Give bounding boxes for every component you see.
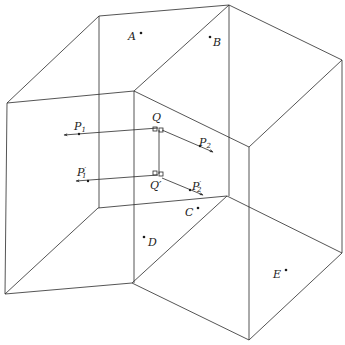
point-c-dot — [197, 207, 200, 210]
point-a-dot — [140, 32, 143, 35]
edge — [249, 253, 342, 340]
vector-point-dot — [78, 133, 80, 135]
edge — [98, 196, 227, 208]
label-b: B — [212, 36, 221, 49]
label-q: Q — [152, 111, 161, 124]
edge — [132, 283, 249, 340]
label-p1: P1 — [73, 120, 86, 134]
label-q-prime: Q′ — [150, 179, 162, 192]
face-points — [140, 32, 288, 272]
edge — [227, 196, 342, 253]
edge — [132, 196, 227, 283]
label-p2-prime: P′2 — [191, 180, 202, 194]
polyhedron-edges — [5, 5, 342, 340]
vector-point-dot — [87, 180, 89, 182]
edge — [5, 283, 132, 294]
point-b-dot — [209, 36, 212, 39]
vectors — [64, 128, 213, 195]
right-angle-marker-q — [153, 127, 163, 132]
label-e: E — [272, 268, 281, 281]
edge — [249, 60, 342, 147]
edge — [7, 91, 134, 103]
label-p1-prime: P′1 — [76, 166, 86, 180]
edge — [99, 5, 229, 16]
polyhedron-diagram: A B C D E Q Q′ P1 P2 P′1 P′2 — [0, 0, 345, 345]
label-d: D — [147, 236, 157, 249]
label-a: A — [127, 30, 136, 43]
edge — [7, 16, 99, 103]
label-c: C — [185, 206, 194, 219]
label-p2: P2 — [198, 136, 211, 150]
diagram-canvas: A B C D E Q Q′ P1 P2 P′1 P′2 — [0, 0, 345, 345]
edge — [229, 5, 342, 60]
edge — [5, 103, 7, 294]
edge — [5, 208, 98, 294]
point-e-dot — [285, 269, 288, 272]
vector-point-dot — [189, 189, 191, 191]
point-d-dot — [143, 236, 146, 239]
